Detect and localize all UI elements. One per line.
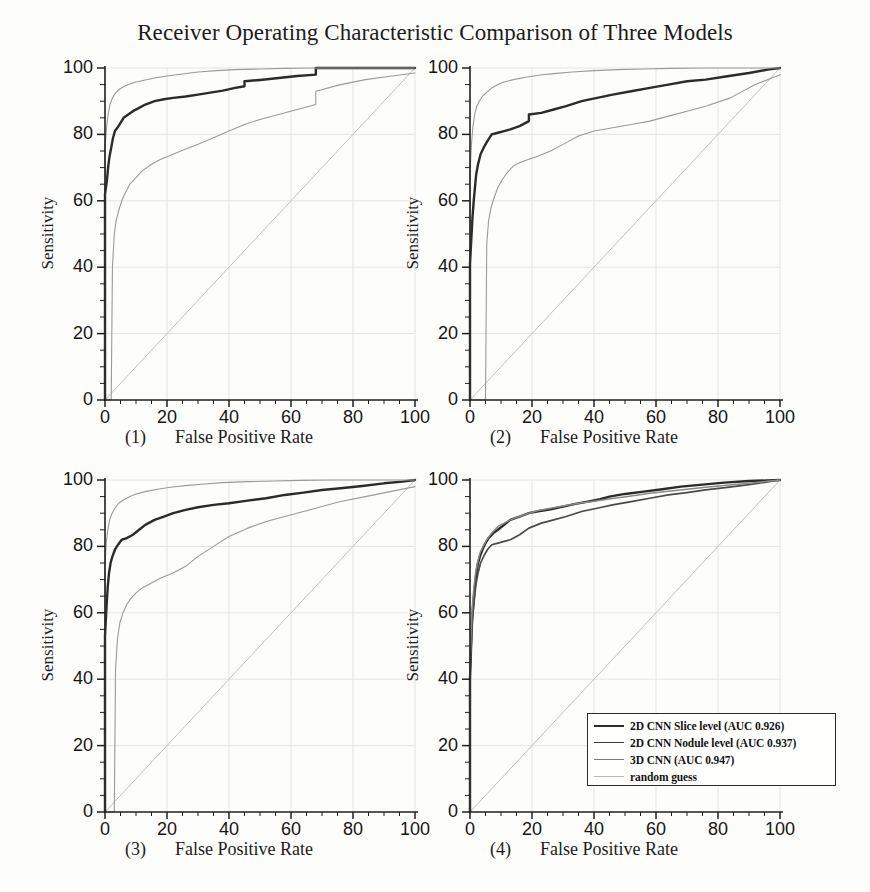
x-tick-2-60: 60 — [631, 407, 681, 428]
y-tick-2-80: 80 — [412, 123, 458, 144]
legend-item-1: 2D CNN Slice level (AUC 0.926) — [592, 717, 831, 734]
x-tick-2-80: 80 — [693, 407, 743, 428]
x-tick-3-20: 20 — [142, 819, 192, 840]
legend-label-4: random guess — [630, 771, 697, 783]
y-tick-3-20: 20 — [47, 735, 93, 756]
y-tick-1-60: 60 — [47, 190, 93, 211]
y-tick-3-80: 80 — [47, 535, 93, 556]
x-tick-4-20: 20 — [507, 819, 557, 840]
x-tick-4-100: 100 — [755, 819, 805, 840]
x-tick-3-100: 100 — [390, 819, 440, 840]
y-tick-2-40: 40 — [412, 256, 458, 277]
curve-lower-confidence-band — [105, 73, 415, 400]
x-tick-3-0: 0 — [80, 819, 130, 840]
panel-number-4: (4) — [490, 839, 511, 860]
x-tick-1-40: 40 — [204, 407, 254, 428]
y-tick-3-60: 60 — [47, 602, 93, 623]
legend-line-icon-1 — [594, 725, 624, 727]
y-tick-4-60: 60 — [412, 602, 458, 623]
legend: 2D CNN Slice level (AUC 0.926)2D CNN Nod… — [587, 713, 836, 786]
x-tick-4-60: 60 — [631, 819, 681, 840]
x-tick-1-20: 20 — [142, 407, 192, 428]
x-tick-3-60: 60 — [266, 819, 316, 840]
page-title: Receiver Operating Characteristic Compar… — [0, 20, 870, 46]
x-tick-4-0: 0 — [445, 819, 495, 840]
x-tick-2-100: 100 — [755, 407, 805, 428]
y-tick-1-40: 40 — [47, 256, 93, 277]
x-tick-1-0: 0 — [80, 407, 130, 428]
legend-label-2: 2D CNN Nodule level (AUC 0.937) — [630, 737, 796, 749]
y-tick-3-40: 40 — [47, 668, 93, 689]
x-tick-2-20: 20 — [507, 407, 557, 428]
y-tick-1-100: 100 — [47, 57, 93, 78]
panel-number-2: (2) — [490, 427, 511, 448]
legend-item-3: 3D CNN (AUC 0.947) — [592, 751, 831, 768]
x-axis-label-1: False Positive Rate — [175, 427, 313, 448]
x-tick-3-80: 80 — [328, 819, 378, 840]
y-tick-4-100: 100 — [412, 469, 458, 490]
legend-item-2: 2D CNN Nodule level (AUC 0.937) — [592, 734, 831, 751]
y-tick-1-80: 80 — [47, 123, 93, 144]
curve-random-guess — [470, 68, 780, 400]
x-tick-4-40: 40 — [569, 819, 619, 840]
legend-line-icon-3 — [594, 759, 624, 760]
x-tick-1-100: 100 — [390, 407, 440, 428]
curve-random-guess — [105, 480, 415, 812]
panel-number-3: (3) — [125, 839, 146, 860]
x-tick-4-80: 80 — [693, 819, 743, 840]
y-tick-2-60: 60 — [412, 190, 458, 211]
legend-label-3: 3D CNN (AUC 0.947) — [630, 754, 734, 766]
y-tick-2-20: 20 — [412, 323, 458, 344]
roc-plot-3 — [105, 480, 423, 820]
x-tick-1-80: 80 — [328, 407, 378, 428]
legend-item-4: random guess — [592, 768, 831, 785]
x-tick-2-0: 0 — [445, 407, 495, 428]
y-tick-4-80: 80 — [412, 535, 458, 556]
roc-plot-2 — [470, 68, 788, 408]
legend-line-icon-4 — [594, 776, 624, 777]
x-axis-label-3: False Positive Rate — [175, 839, 313, 860]
legend-label-1: 2D CNN Slice level (AUC 0.926) — [630, 720, 784, 732]
y-tick-4-20: 20 — [412, 735, 458, 756]
curve-lower-confidence-band — [470, 75, 780, 400]
x-tick-1-60: 60 — [266, 407, 316, 428]
y-tick-3-100: 100 — [47, 469, 93, 490]
y-tick-2-100: 100 — [412, 57, 458, 78]
y-tick-1-20: 20 — [47, 323, 93, 344]
curve-random-guess — [105, 68, 415, 400]
roc-plot-1 — [105, 68, 423, 408]
y-tick-4-40: 40 — [412, 668, 458, 689]
x-axis-label-4: False Positive Rate — [540, 839, 678, 860]
curve-lower-confidence-band — [105, 487, 415, 812]
panel-number-1: (1) — [125, 427, 146, 448]
legend-line-icon-2 — [594, 742, 624, 743]
x-tick-3-40: 40 — [204, 819, 254, 840]
x-axis-label-2: False Positive Rate — [540, 427, 678, 448]
x-tick-2-40: 40 — [569, 407, 619, 428]
